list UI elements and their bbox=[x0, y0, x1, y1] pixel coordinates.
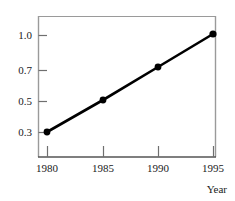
y-tick-label-4: 0.3 bbox=[6, 127, 32, 138]
y-tick-label-2: 0.7 bbox=[6, 65, 32, 76]
y-tick-label-1: 1.0 bbox=[6, 30, 32, 41]
x-tick-label-4: 1995 bbox=[202, 163, 224, 174]
data-point-marker bbox=[44, 129, 51, 136]
x-axis-title: Year bbox=[207, 183, 227, 195]
x-tick-label-2: 1985 bbox=[92, 163, 114, 174]
data-point-marker bbox=[155, 64, 162, 71]
x-tick-label-3: 1990 bbox=[147, 163, 169, 174]
y-tick-label-3: 0.5 bbox=[6, 96, 32, 107]
data-point-marker bbox=[209, 30, 216, 37]
x-tick-label-1: 1980 bbox=[36, 163, 58, 174]
chart-figure: 1.0 0.7 0.5 0.3 1980 1985 1990 1995 Year bbox=[0, 0, 235, 201]
data-line bbox=[47, 34, 213, 132]
data-point-marker bbox=[100, 97, 107, 104]
